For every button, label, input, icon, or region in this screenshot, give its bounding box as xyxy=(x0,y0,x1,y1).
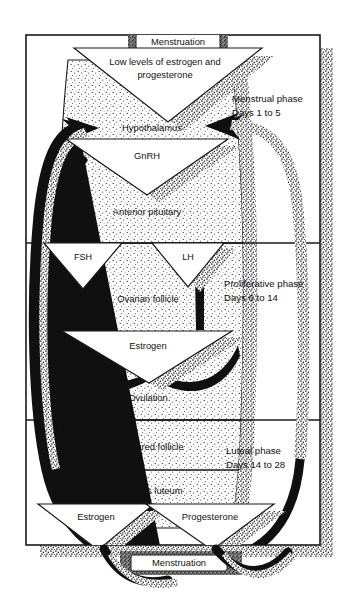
lh-label: LH xyxy=(182,252,194,262)
diagram-canvas: Menstruation Low levels of estrogen and … xyxy=(0,0,347,611)
svg-text:Days 6 to 14: Days 6 to 14 xyxy=(224,292,279,303)
menstruation-top-label: Menstruation xyxy=(151,36,205,47)
ovarian-follicle-label: Ovarian follicle xyxy=(117,293,178,304)
svg-text:Luteal phase: Luteal phase xyxy=(226,445,281,456)
estrogen-bottom-label: Estrogen xyxy=(77,511,115,522)
ruptured-follicle-label: Ruptured follicle xyxy=(116,441,183,452)
ovulation-label: Ovulation xyxy=(128,392,168,403)
menstruation-bottom-label: Menstruation xyxy=(152,557,206,568)
anterior-pituitary-label: Anterior pituitary xyxy=(113,206,182,217)
low-levels-label-line1: Low levels of estrogen and xyxy=(109,56,221,67)
svg-text:Days 1 to 5: Days 1 to 5 xyxy=(232,107,281,118)
hypothalamus-label: Hypothalamus xyxy=(122,122,182,133)
fsh-label: FSH xyxy=(74,252,92,262)
low-levels-label-line2: progesterone xyxy=(137,69,192,80)
estrogen-mid-label: Estrogen xyxy=(129,340,167,351)
gnrh-label: GnRH xyxy=(134,150,160,161)
svg-text:Menstrual phase: Menstrual phase xyxy=(232,93,303,104)
svg-text:Days 14 to 28: Days 14 to 28 xyxy=(226,459,285,470)
corpus-luteum-label: Corpus luteum xyxy=(122,485,183,496)
progesterone-bottom-label: Progesterone xyxy=(182,511,238,522)
svg-text:Proliferative phase: Proliferative phase xyxy=(224,278,303,289)
